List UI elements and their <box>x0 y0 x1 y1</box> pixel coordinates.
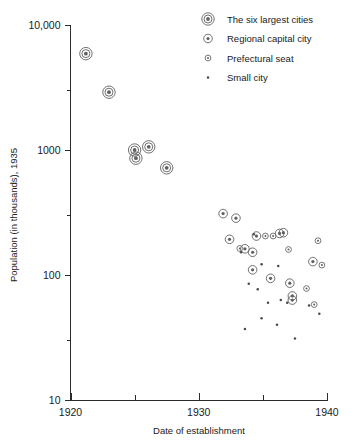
chart-background <box>0 0 350 447</box>
data-point <box>143 141 155 153</box>
legend-label: Prefectural seat <box>227 53 294 64</box>
legend-label: The six largest cities <box>227 14 313 25</box>
data-point <box>286 301 289 304</box>
x-tick-label-1920: 1920 <box>59 406 83 418</box>
y-tick-label-1000: 1000 <box>37 144 61 156</box>
y-tick-label-10000: 10,000 <box>28 19 60 31</box>
legend-label: Regional capital city <box>227 33 312 44</box>
x-tick-label-1930: 1930 <box>187 406 211 418</box>
data-point <box>244 328 247 331</box>
data-point <box>260 317 263 320</box>
data-point <box>253 233 256 236</box>
data-point <box>248 283 251 286</box>
data-point <box>256 288 259 291</box>
data-point <box>294 337 297 340</box>
data-point <box>308 304 311 307</box>
data-point <box>318 312 321 315</box>
data-point <box>103 86 115 98</box>
data-point <box>160 162 172 174</box>
data-point <box>267 301 270 304</box>
y-tick-label-100: 100 <box>43 269 61 281</box>
data-point <box>80 47 92 59</box>
x-axis-title: Date of establishment <box>153 425 245 436</box>
data-point <box>276 323 279 326</box>
plot-canvas: 10100100010,000 192019301940 The six lar… <box>0 0 350 447</box>
x-tick-label-1940: 1940 <box>315 406 339 418</box>
data-point <box>280 299 283 302</box>
data-point <box>240 251 243 254</box>
scatter-plot-figure: 10100100010,000 192019301940 The six lar… <box>0 0 350 447</box>
data-point <box>130 152 142 164</box>
legend-marker-dot-icon <box>207 76 210 79</box>
legend-label: Small city <box>227 72 268 83</box>
data-point <box>277 265 280 268</box>
data-point <box>260 263 263 266</box>
y-axis-title: Population (in thousands), 1935 <box>8 148 19 282</box>
y-tick-label-10: 10 <box>49 394 61 406</box>
legend-marker-double-ring-icon <box>202 13 214 25</box>
